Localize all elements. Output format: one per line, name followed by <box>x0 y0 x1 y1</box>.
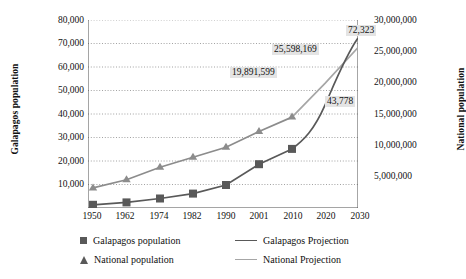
left-axis-tick-10000: 10,000 <box>28 179 84 189</box>
legend-label-galapagos-projection: Galapagos Projection <box>263 232 349 249</box>
right-axis-title: National population <box>456 14 466 204</box>
population-growth-chart: Galapagos population National population… <box>0 0 466 279</box>
legend-item-national-projection: National Projection <box>235 251 341 268</box>
right-axis-tick-10000000: 10,000,000 <box>374 140 440 150</box>
data-label-galapagos-2030: 72,323 <box>346 25 376 36</box>
series-markers-national-population <box>89 113 296 191</box>
line-marker-icon <box>235 240 257 241</box>
right-axis-tick-5000000: 5,000,000 <box>374 171 440 181</box>
left-axis-tick-80000: 80,000 <box>28 15 84 25</box>
triangle-marker-icon <box>80 256 88 264</box>
legend-item-galapagos-population: Galapagos population <box>80 232 180 249</box>
x-axis-tick-2030: 2030 <box>340 211 380 221</box>
left-axis-tick-60000: 60,000 <box>28 62 84 72</box>
left-axis-tick-20000: 20,000 <box>28 156 84 166</box>
right-axis-tick-25000000: 25,000,000 <box>374 46 440 56</box>
line-marker-light-icon <box>235 259 257 260</box>
legend-item-national-population: National population <box>80 251 174 268</box>
left-axis-title: Galapagos population <box>10 14 20 204</box>
data-label-national-2020: 19,891,599 <box>230 67 277 78</box>
left-axis-tick-70000: 70,000 <box>28 38 84 48</box>
left-axis-tick-40000: 40,000 <box>28 109 84 119</box>
left-axis-tick-50000: 50,000 <box>28 85 84 95</box>
series-line-national-population <box>93 117 292 188</box>
data-label-national-2030: 25,598,169 <box>272 44 319 55</box>
right-axis-tick-30000000: 30,000,000 <box>374 15 440 25</box>
chart-legend: Galapagos population Galapagos Projectio… <box>80 232 420 272</box>
legend-label-national-population: National population <box>94 251 174 268</box>
square-marker-icon <box>80 237 87 244</box>
right-axis-tick-15000000: 15,000,000 <box>374 109 440 119</box>
left-axis-tick-30000: 30,000 <box>28 132 84 142</box>
right-axis-tick-20000000: 20,000,000 <box>374 77 440 87</box>
data-label-galapagos-2020: 43,778 <box>325 96 355 107</box>
legend-label-galapagos-population: Galapagos population <box>93 232 180 249</box>
legend-item-galapagos-projection: Galapagos Projection <box>235 232 349 249</box>
legend-label-national-projection: National Projection <box>263 251 341 268</box>
